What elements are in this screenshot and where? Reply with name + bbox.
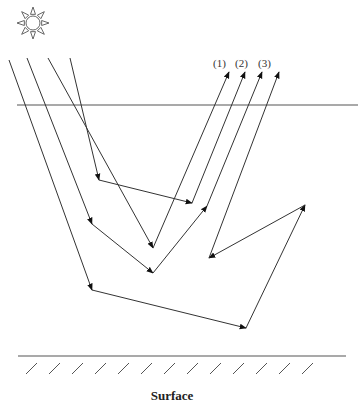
ray-segment bbox=[209, 72, 279, 258]
hatch-mark bbox=[302, 363, 313, 374]
diagram-canvas: (1) (2) (3) Surface bbox=[0, 0, 358, 408]
sun-ray bbox=[31, 7, 36, 14]
path-label-2: (2) bbox=[235, 57, 248, 70]
sun-ray bbox=[37, 27, 44, 34]
ray-segment bbox=[92, 290, 246, 328]
hatch-mark bbox=[72, 363, 83, 374]
surface-hatching bbox=[26, 363, 313, 374]
sun-ray bbox=[22, 27, 29, 34]
sun-ray bbox=[22, 12, 29, 19]
surface-label: Surface bbox=[151, 388, 194, 403]
sun-ray bbox=[17, 21, 24, 26]
hatch-mark bbox=[256, 363, 267, 374]
hatch-mark bbox=[26, 363, 37, 374]
path-label-3: (3) bbox=[258, 57, 271, 70]
ray-segment bbox=[99, 180, 192, 203]
ray-segment bbox=[9, 60, 92, 290]
sun-icon bbox=[17, 7, 49, 39]
hatch-mark bbox=[141, 363, 152, 374]
ray-segment bbox=[70, 58, 99, 180]
ray-segment bbox=[209, 205, 305, 258]
sun-disc bbox=[26, 16, 40, 30]
hatch-mark bbox=[210, 363, 221, 374]
hatch-mark bbox=[187, 363, 198, 374]
sun-ray bbox=[31, 32, 36, 39]
hatch-mark bbox=[279, 363, 290, 374]
ray-segment bbox=[153, 206, 207, 273]
sun-ray bbox=[42, 21, 49, 26]
ray-segment bbox=[246, 205, 305, 328]
sun-ray bbox=[37, 12, 44, 19]
hatch-mark bbox=[164, 363, 175, 374]
ray-paths bbox=[9, 58, 305, 328]
hatch-mark bbox=[95, 363, 106, 374]
ray-segment bbox=[153, 72, 229, 248]
hatch-mark bbox=[118, 363, 129, 374]
path-label-1: (1) bbox=[213, 57, 226, 70]
hatch-mark bbox=[233, 363, 244, 374]
hatch-mark bbox=[49, 363, 60, 374]
